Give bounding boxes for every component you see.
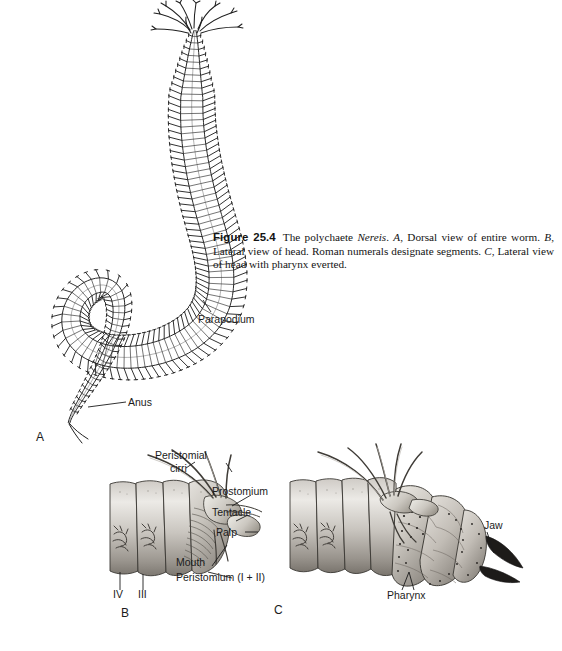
pharynx-leader-right [409,572,414,590]
figure-number: Figure 25.4 [213,231,276,243]
pharynx-leader-left [402,572,409,590]
caption-text-1: The polychaete [283,231,358,243]
figure-plate: Parapodium Anus A [0,0,562,651]
label-jaw: Jaw [484,519,503,531]
caption-ref-c: C [484,245,491,257]
caption-text-3: , Dorsal view of entire worm. [400,231,544,243]
figure-caption: Figure 25.4The polychaete Nereis. A, Dor… [213,231,554,272]
panel-c-leaders [0,0,562,651]
jaw-leader [487,532,494,553]
panel-letter-c: C [274,603,283,617]
caption-genus: Nereis [357,231,386,243]
label-pharynx: Pharynx [387,589,426,601]
